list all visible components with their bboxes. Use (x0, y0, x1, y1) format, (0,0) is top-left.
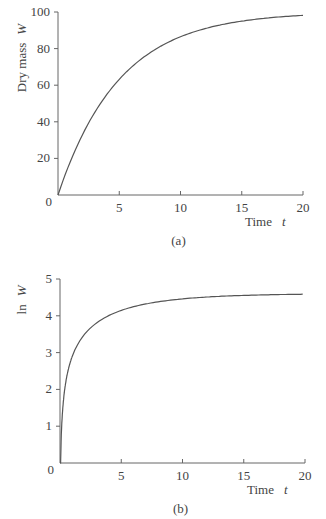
y-tick-label: 20 (37, 150, 50, 165)
y-tick-label: 3 (46, 345, 53, 360)
x-tick-label: 10 (174, 200, 187, 215)
chart-a-curve (58, 15, 303, 195)
y-tick-label: 60 (37, 77, 50, 92)
y-tick-label: 100 (31, 4, 51, 19)
y-tick-label: 40 (37, 114, 50, 129)
y-tick-label: 2 (46, 381, 53, 396)
chart-b-x-axis-label: Timet (247, 482, 288, 497)
y-tick-label: 80 (37, 41, 50, 56)
y-tick-label: 1 (46, 418, 53, 433)
y-tick-label: 5 (46, 271, 53, 286)
x-tick-label: 5 (118, 468, 125, 483)
chart-a-y-axis-label: Dry massW (14, 23, 29, 92)
chart-a-panel-label: (a) (171, 233, 185, 248)
x-tick-label: 20 (297, 200, 310, 215)
chart-b-panel-label: (b) (173, 501, 188, 516)
x-tick-label: 15 (235, 200, 248, 215)
x-tick-label: 15 (237, 468, 250, 483)
origin-label: 0 (48, 462, 55, 477)
y-tick-label: 4 (46, 308, 53, 323)
origin-label: 0 (46, 194, 53, 209)
x-tick-label: 20 (299, 468, 312, 483)
chart-a-axes (58, 12, 303, 195)
x-tick-label: 10 (176, 468, 189, 483)
chart-a-x-axis-label: Timet (245, 214, 286, 229)
x-tick-label: 5 (116, 200, 123, 215)
growth-charts: 2040608010051015200TimetDry massW(a)1234… (0, 0, 326, 519)
chart-b-curve (60, 294, 303, 463)
chart-b-y-axis-label: lnW (14, 284, 29, 314)
chart-b-axes (60, 279, 305, 463)
